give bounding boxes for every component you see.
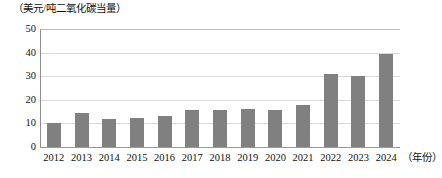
bar-slot — [289, 29, 317, 147]
x-tick-label: 2017 — [182, 151, 203, 165]
y-axis-tick-labels: 01020304050 — [0, 29, 36, 147]
y-tick-label: 40 — [2, 48, 36, 59]
bar — [324, 74, 338, 147]
y-tick-label: 10 — [2, 118, 36, 129]
x-tick-label: 2012 — [43, 151, 64, 165]
bar-slot — [345, 29, 373, 147]
bar — [102, 119, 116, 147]
y-axis-unit-label: （美元/吨二氧化碳当量） — [13, 2, 126, 16]
bar-slot — [40, 29, 68, 147]
bar — [158, 116, 172, 147]
x-tick-label: 2022 — [320, 151, 341, 165]
y-tick-label: 50 — [2, 24, 36, 35]
x-axis-unit-label: （年份） — [402, 151, 442, 165]
bar — [268, 110, 282, 147]
bar-slot — [206, 29, 234, 147]
x-tick-label: 2024 — [376, 151, 397, 165]
x-tick-label: 2014 — [99, 151, 120, 165]
x-tick-label: 2018 — [210, 151, 231, 165]
y-tick-label: 0 — [2, 142, 36, 153]
bar-series — [40, 29, 400, 147]
bar-slot — [234, 29, 262, 147]
bar-slot — [123, 29, 151, 147]
bar — [75, 113, 89, 147]
bar-slot — [95, 29, 123, 147]
bar-slot — [372, 29, 400, 147]
x-tick-label: 2016 — [154, 151, 175, 165]
y-tick-label: 20 — [2, 95, 36, 106]
x-tick-label: 2015 — [126, 151, 147, 165]
bar — [130, 118, 144, 148]
bar-slot — [151, 29, 179, 147]
x-tick-label: 2019 — [237, 151, 258, 165]
x-tick-label: 2013 — [71, 151, 92, 165]
bar-slot — [317, 29, 345, 147]
bar-chart: （美元/吨二氧化碳当量） 01020304050 201220132014201… — [0, 0, 442, 178]
bar — [241, 109, 255, 147]
bar — [185, 110, 199, 147]
gridline-0 — [40, 147, 400, 148]
bar-slot — [68, 29, 96, 147]
bar — [47, 123, 61, 147]
bar — [296, 105, 310, 147]
x-tick-label: 2020 — [265, 151, 286, 165]
y-tick-label: 30 — [2, 71, 36, 82]
bar — [379, 54, 393, 147]
x-axis-tick-labels: 2012201320142015201620172018201920202021… — [40, 151, 400, 167]
x-tick-label: 2021 — [293, 151, 314, 165]
bar-slot — [178, 29, 206, 147]
bar-slot — [262, 29, 290, 147]
bar — [351, 76, 365, 147]
bar — [213, 110, 227, 147]
x-tick-label: 2023 — [348, 151, 369, 165]
